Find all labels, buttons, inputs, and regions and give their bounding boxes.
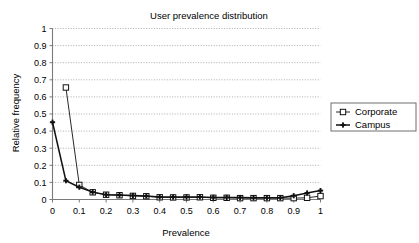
data-point-marker [172,195,174,200]
data-point-marker [145,193,147,198]
axes [53,29,321,200]
data-point-marker [63,85,68,90]
data-point-marker [226,195,228,200]
series-line [66,87,321,198]
data-point-marker [132,193,134,198]
y-tick-label: 0.1 [34,178,47,188]
legend-label: Corporate [355,106,397,117]
y-tick-label: 1 [41,24,46,34]
data-point-marker [306,190,308,195]
chart-title: User prevalence distribution [150,10,268,21]
chart-plot-area: 00.10.20.30.40.50.60.70.80.91 00.10.20.3… [34,24,323,216]
gridlines [53,29,321,183]
y-axis-title: Relative frequency [10,73,21,152]
legend-sample-marker [340,109,345,114]
y-tick-label: 0 [41,195,46,205]
data-point-marker [92,190,94,195]
y-tick-label: 0.6 [34,92,47,102]
data-point-marker [159,194,161,199]
x-tick-label: 0.5 [180,206,193,216]
data-point-marker [105,192,107,197]
data-point-marker [320,188,322,193]
y-tick-label: 0.8 [34,58,47,68]
x-tick-label: 0.7 [234,206,247,216]
x-axis-title: Prevalence [162,227,210,238]
series-corporate [63,85,323,201]
data-point-marker [279,195,281,200]
legend-sample-marker [342,122,344,127]
x-tick-label: 0.3 [127,206,140,216]
line-chart: 00.10.20.30.40.50.60.70.80.91 00.10.20.3… [0,0,419,243]
data-point-marker [253,195,255,200]
y-tick-label: 0.9 [34,41,47,51]
x-tick-label: 0 [50,206,55,216]
x-tick-label: 0.2 [100,206,113,216]
y-tick-label: 0.4 [34,126,47,136]
series-campus [50,120,323,201]
data-point-marker [212,195,214,200]
y-tick-label: 0.2 [34,161,47,171]
data-point-marker [52,120,54,125]
y-tick-label: 0.3 [34,144,47,154]
x-tick-label: 0.8 [261,206,274,216]
data-point-marker [239,195,241,200]
data-point-marker [119,192,121,197]
x-tick-label: 1 [318,206,323,216]
data-point-marker [293,193,295,198]
y-tick-label: 0.5 [34,109,47,119]
data-series [50,85,323,201]
x-tick-label: 0.1 [73,206,86,216]
x-tick-label: 0.9 [287,206,300,216]
series-line [53,122,321,198]
y-tick-label: 0.7 [34,75,47,85]
x-tick-labels: 00.10.20.30.40.50.60.70.80.91 [50,206,323,216]
data-point-marker [304,195,309,200]
x-tick-label: 0.6 [207,206,220,216]
chart-figure: 00.10.20.30.40.50.60.70.80.91 00.10.20.3… [0,0,419,243]
tick-marks [50,29,321,203]
data-point-marker [318,193,323,198]
chart-legend: CorporateCampus [331,103,416,131]
data-point-marker [78,185,80,190]
y-tick-labels: 00.10.20.30.40.50.60.70.80.91 [34,24,47,205]
data-point-marker [186,195,188,200]
data-point-marker [65,178,67,183]
data-point-marker [199,194,201,199]
x-tick-label: 0.4 [153,206,166,216]
data-point-marker [266,195,268,200]
legend-label: Campus [355,119,391,130]
